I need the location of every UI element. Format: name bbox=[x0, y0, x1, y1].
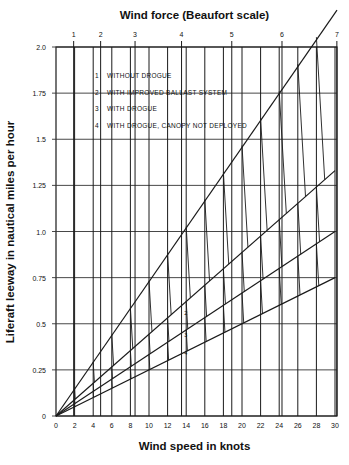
legend-label: WITH DROGUE bbox=[107, 105, 158, 112]
beaufort-label: 5 bbox=[230, 31, 234, 38]
x-tick-label: 14 bbox=[182, 422, 190, 429]
legend-number: 1 bbox=[95, 72, 99, 79]
y-tick-label: 1.0 bbox=[36, 229, 46, 236]
x-tick-label: 6 bbox=[110, 422, 114, 429]
x-tick-label: 24 bbox=[275, 422, 283, 429]
y-tick-label: 0 bbox=[42, 413, 46, 420]
series-line-1 bbox=[56, 10, 337, 416]
y-tick-label: 0.75 bbox=[32, 275, 46, 282]
crosshatch-segment bbox=[112, 379, 113, 388]
beaufort-label: 7 bbox=[335, 31, 339, 38]
x-tick-label: 20 bbox=[238, 422, 246, 429]
x-tick-label: 12 bbox=[164, 422, 172, 429]
legend-label: WITH DROGUE, CANOPY NOT DEPLOYED bbox=[107, 122, 247, 129]
x-tick-label: 26 bbox=[294, 422, 302, 429]
y-tick-label: 1.5 bbox=[36, 136, 46, 143]
legend-label: WITHOUT DROGUE bbox=[107, 72, 172, 79]
y-tick-label: 0.25 bbox=[32, 367, 46, 374]
crosshatch-segment bbox=[205, 200, 210, 281]
x-tick-label: 30 bbox=[331, 422, 339, 429]
legend-number: 3 bbox=[95, 105, 99, 112]
chart-plot: 00.250.50.751.01.251.51.752.002468101214… bbox=[0, 0, 349, 465]
beaufort-label: 6 bbox=[280, 31, 284, 38]
crosshatch-segment bbox=[261, 118, 268, 230]
crosshatch-segment bbox=[298, 64, 306, 196]
crosshatch-segment bbox=[223, 172, 228, 264]
y-tick-label: 1.25 bbox=[32, 182, 46, 189]
y-tick-label: 2.0 bbox=[36, 44, 46, 51]
line-label: 3 bbox=[184, 332, 187, 338]
beaufort-label: 3 bbox=[133, 31, 137, 38]
x-tick-label: 8 bbox=[128, 422, 132, 429]
x-tick-label: 4 bbox=[91, 422, 95, 429]
beaufort-label: 4 bbox=[180, 31, 184, 38]
x-tick-label: 28 bbox=[313, 422, 321, 429]
x-tick-label: 10 bbox=[145, 422, 153, 429]
x-tick-label: 16 bbox=[201, 422, 209, 429]
legend-number: 4 bbox=[95, 122, 99, 129]
beaufort-label: 2 bbox=[99, 31, 103, 38]
series-line-2 bbox=[56, 171, 335, 416]
legend-number: 2 bbox=[95, 89, 99, 96]
crosshatch-segment bbox=[75, 389, 76, 399]
series-line-4 bbox=[56, 278, 335, 416]
y-tick-label: 0.5 bbox=[36, 321, 46, 328]
x-tick-label: 0 bbox=[54, 422, 58, 429]
crosshatch-segment bbox=[316, 37, 324, 180]
x-tick-label: 18 bbox=[220, 422, 228, 429]
crosshatch-segment bbox=[279, 91, 286, 213]
crosshatch-segment bbox=[168, 254, 172, 315]
line-label: 2 bbox=[184, 310, 187, 316]
beaufort-label: 1 bbox=[72, 31, 76, 38]
crosshatch-segment bbox=[186, 227, 190, 298]
x-tick-label: 2 bbox=[73, 422, 77, 429]
y-tick-label: 1.75 bbox=[32, 90, 46, 97]
line-label: 4 bbox=[184, 350, 187, 356]
x-tick-label: 22 bbox=[257, 422, 265, 429]
legend-label: WITH IMPROVED BALLAST SYSTEM bbox=[107, 89, 227, 96]
